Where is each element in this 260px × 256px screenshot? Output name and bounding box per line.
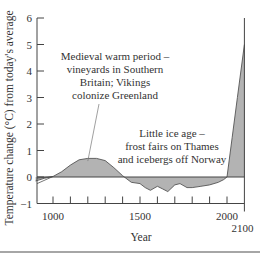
x-tick-label: 1500 — [129, 210, 152, 222]
y-axis-title: Temperature change (°C) from today's ave… — [3, 10, 16, 225]
x-tick-label: 2100 — [231, 222, 254, 234]
y-tick-label: 6 — [27, 12, 33, 24]
annotation-line: Little ice age – — [139, 127, 205, 139]
tick-layer: 6543210−11000150020002100 — [20, 12, 254, 234]
annotation-line: Medieval warm period – — [61, 50, 170, 62]
y-tick-label: 5 — [27, 39, 33, 51]
y-tick-label: 2 — [27, 118, 33, 130]
y-tick-label: 4 — [27, 65, 33, 77]
x-tick-label: 2000 — [216, 210, 239, 222]
y-tick-label: 1 — [27, 145, 33, 157]
annotation-line: colonize Greenland — [72, 89, 158, 101]
annotation-line: vineyards in Southern — [67, 63, 164, 75]
annotation-line: frost fairs on Thames — [125, 140, 219, 152]
y-tick-label: 0 — [27, 171, 33, 183]
annotation-little-ice-age: Little ice age –frost fairs on Thamesand… — [118, 127, 227, 165]
annotation-line: and icebergs off Norway — [118, 153, 227, 165]
annotation-line: Britain; Vikings — [80, 76, 150, 88]
annotation-layer: Medieval warm period –vineyards in South… — [61, 50, 227, 165]
annotation-leader-line — [88, 104, 99, 161]
x-tick-label: 1000 — [42, 210, 65, 222]
y-tick-label: −1 — [20, 198, 32, 210]
temperature-chart: 6543210−11000150020002100 Year Temperatu… — [0, 0, 260, 256]
x-axis-title: Year — [130, 231, 151, 243]
y-tick-label: 3 — [27, 92, 33, 104]
